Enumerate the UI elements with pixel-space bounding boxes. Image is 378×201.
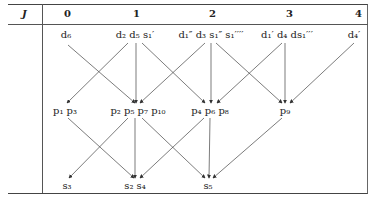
arrows-layer: [0, 0, 378, 201]
